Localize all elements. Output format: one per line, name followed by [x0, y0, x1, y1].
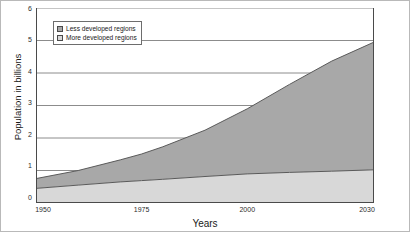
x-axis-title: Years: [36, 218, 374, 229]
legend-item-less-developed[interactable]: Less developed regions: [57, 24, 137, 33]
x-axis-tick-labels: 1950 1975 2000 2030: [36, 206, 374, 218]
x-tick-label: 2000: [239, 206, 255, 214]
x-tick-label: 2030: [359, 206, 375, 214]
legend-swatch-less-developed: [57, 26, 63, 32]
y-tick-label: 6: [6, 5, 32, 12]
x-tick-label: 1950: [35, 206, 51, 214]
legend-label-less-developed: Less developed regions: [66, 25, 136, 32]
y-tick-label: 0: [6, 194, 32, 201]
legend-swatch-more-developed: [57, 35, 63, 41]
area-less-developed: [36, 42, 374, 188]
legend-item-more-developed[interactable]: More developed regions: [57, 33, 137, 42]
x-tick-label: 1975: [134, 206, 150, 214]
chart-figure: 6 5 4 3 2 1 0 Population in billions: [0, 0, 411, 238]
chart-legend[interactable]: Less developed regions More developed re…: [53, 21, 142, 45]
legend-label-more-developed: More developed regions: [66, 34, 137, 41]
y-axis-title: Population in billions: [13, 27, 23, 167]
